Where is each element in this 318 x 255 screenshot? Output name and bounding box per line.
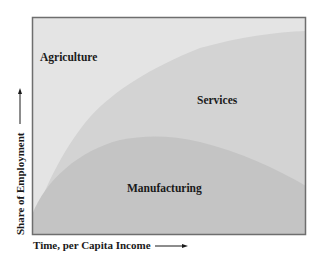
agriculture-label: Agriculture — [40, 51, 97, 64]
services-label: Services — [197, 94, 238, 106]
y-axis-arrow-icon — [18, 88, 22, 124]
sectoral-employment-diagram: Agriculture Services Manufacturing Share… — [0, 0, 318, 255]
y-axis-label: Share of Employment — [14, 132, 26, 235]
x-axis-arrow-icon — [155, 244, 188, 248]
manufacturing-label: Manufacturing — [127, 182, 202, 195]
x-axis-label: Time, per Capita Income — [33, 239, 151, 251]
